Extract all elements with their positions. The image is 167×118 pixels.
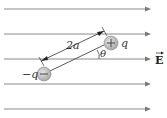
arrowhead-icon bbox=[145, 107, 151, 112]
arrowhead-icon bbox=[145, 57, 151, 62]
angle-label: θ bbox=[100, 49, 106, 59]
negative-charge-label: −q bbox=[22, 69, 38, 80]
field-label: E bbox=[155, 55, 163, 66]
dipole-diagram bbox=[0, 0, 167, 118]
separation-label: 2a bbox=[66, 40, 80, 51]
angle-arc bbox=[97, 50, 99, 59]
arrowhead-icon bbox=[145, 7, 151, 12]
extension-line bbox=[39, 57, 44, 66]
positive-charge-label: q bbox=[121, 38, 128, 49]
arrowhead-icon bbox=[145, 82, 151, 87]
arrowheads bbox=[145, 7, 151, 112]
arrowhead-icon bbox=[145, 32, 151, 37]
